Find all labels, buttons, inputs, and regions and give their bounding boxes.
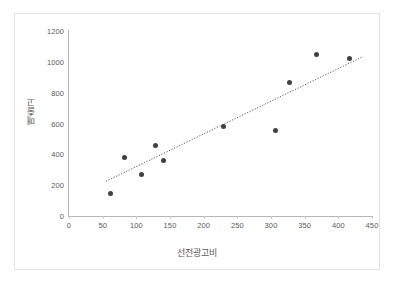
- data-point: [153, 143, 158, 148]
- scatter-chart-figure: 020040060080010001200 050100150200250300…: [0, 0, 394, 282]
- x-tick-label: 0: [67, 221, 71, 230]
- x-tick-mark: [372, 216, 373, 219]
- x-tick-label: 350: [298, 221, 311, 230]
- x-tick-mark: [305, 216, 306, 219]
- data-point: [139, 172, 144, 177]
- x-tick-label: 450: [366, 221, 379, 230]
- y-axis-line: [68, 30, 69, 217]
- x-tick-mark: [338, 216, 339, 219]
- data-point: [221, 124, 226, 129]
- x-tick-mark: [237, 216, 238, 219]
- y-axis-tick-labels: 020040060080010001200: [0, 0, 64, 282]
- y-axis-title: 매출고: [26, 98, 38, 125]
- y-tick-label: 200: [51, 181, 64, 190]
- x-tick-label: 200: [197, 221, 210, 230]
- x-axis-title: 선전광고비: [0, 246, 394, 259]
- y-tick-label: 0: [60, 212, 64, 221]
- x-axis-line: [68, 216, 373, 217]
- data-point: [347, 56, 352, 61]
- y-tick-label: 1200: [47, 27, 64, 36]
- y-tick-label: 1000: [47, 57, 64, 66]
- x-tick-label: 150: [164, 221, 177, 230]
- data-point: [314, 52, 319, 57]
- data-point: [108, 191, 113, 196]
- x-tick-label: 100: [130, 221, 143, 230]
- x-tick-mark: [103, 216, 104, 219]
- x-tick-mark: [204, 216, 205, 219]
- x-tick-mark: [170, 216, 171, 219]
- x-tick-label: 400: [332, 221, 345, 230]
- x-tick-label: 250: [231, 221, 244, 230]
- y-tick-label: 800: [51, 88, 64, 97]
- x-tick-mark: [136, 216, 137, 219]
- y-tick-label: 600: [51, 119, 64, 128]
- x-tick-mark: [271, 216, 272, 219]
- data-point: [273, 128, 278, 133]
- x-tick-mark: [69, 216, 70, 219]
- data-point: [287, 80, 292, 85]
- x-tick-label: 300: [265, 221, 278, 230]
- y-tick-label: 400: [51, 150, 64, 159]
- x-tick-label: 50: [98, 221, 107, 230]
